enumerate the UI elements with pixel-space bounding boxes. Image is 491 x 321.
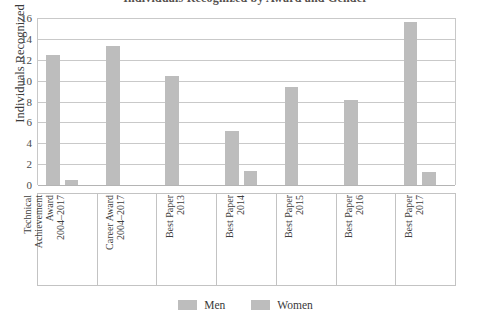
bar-men[interactable] (285, 87, 299, 185)
x-axis-label-cell: Best Paper2017 (396, 194, 455, 285)
legend-item-men[interactable]: Men (178, 299, 225, 311)
x-axis-label-cell: Best Paper2015 (277, 194, 337, 285)
bar-group (98, 18, 158, 185)
x-axis-label-line: 2015 (294, 195, 305, 281)
y-tick-label: 2 (27, 158, 33, 170)
x-axis-label-line: 2013 (175, 195, 186, 281)
x-axis-label-line: 2004–2017 (55, 195, 66, 281)
legend: MenWomen (0, 299, 491, 311)
x-axis-label-cell: Best Paper2014 (217, 194, 277, 285)
y-tick-label: 0 (27, 179, 33, 191)
bar-men[interactable] (404, 22, 418, 185)
x-axis-label-line: Technical (22, 195, 33, 281)
bar-group (336, 18, 396, 185)
legend-item-women[interactable]: Women (251, 299, 312, 311)
bar-women[interactable] (65, 180, 79, 185)
x-axis-label-line: Best Paper (343, 195, 354, 281)
gridline-0: 0 (38, 185, 455, 186)
chart-title: Individuals Recognized by Award and Gend… (0, 0, 491, 5)
legend-label: Men (204, 299, 225, 311)
bar-group (395, 18, 455, 185)
bars-layer (38, 18, 455, 185)
y-tick-label: 6 (27, 116, 33, 128)
plot-frame: 0246810121416 (37, 18, 456, 185)
bar-men[interactable] (344, 100, 358, 185)
x-axis-label: Best Paper2016 (343, 195, 365, 281)
x-axis-label: Best Paper2014 (224, 195, 246, 281)
y-tick-label: 4 (27, 137, 33, 149)
plot-area: 0246810121416 (37, 18, 456, 185)
x-axis-label-line: Best Paper (164, 195, 175, 281)
y-tick-label: 16 (21, 12, 32, 24)
x-axis-label-cell: TechnicalAchievementAward2004–2017 (38, 194, 98, 285)
bar-men[interactable] (46, 55, 60, 185)
legend-label: Women (277, 299, 312, 311)
x-axis-label-cell: Best Paper2016 (337, 194, 397, 285)
bar-group (157, 18, 217, 185)
bar-group (276, 18, 336, 185)
bar-women[interactable] (422, 172, 436, 185)
x-axis-label-line: Best Paper (403, 195, 414, 281)
bar-men[interactable] (165, 76, 179, 185)
x-axis-label: TechnicalAchievementAward2004–2017 (22, 195, 66, 281)
x-axis-label-line: Career Award (104, 195, 115, 281)
y-tick-label: 14 (21, 33, 32, 45)
x-axis-label-line: Award (44, 195, 55, 281)
bar-men[interactable] (106, 46, 120, 185)
y-tick-label: 10 (21, 75, 32, 87)
x-axis-label-line: Best Paper (224, 195, 235, 281)
x-axis-label-line: 2004–2017 (115, 195, 126, 281)
x-axis-label: Best Paper2015 (283, 195, 305, 281)
x-axis-label-cell: Career Award2004–2017 (98, 194, 158, 285)
x-axis-label-cell: Best Paper2013 (157, 194, 217, 285)
x-axis-label: Best Paper2017 (403, 195, 425, 281)
x-axis-label-line: 2016 (354, 195, 365, 281)
x-axis-label-line: 2014 (235, 195, 246, 281)
legend-swatch-icon (251, 300, 270, 310)
x-axis-label-line: Achievement (33, 195, 44, 281)
x-axis-label-table: TechnicalAchievementAward2004–2017Career… (37, 193, 456, 286)
bar-group (38, 18, 98, 185)
bar-men[interactable] (225, 131, 239, 185)
bar-women[interactable] (244, 171, 258, 185)
bar-group (217, 18, 277, 185)
legend-swatch-icon (178, 300, 197, 310)
x-axis-label-line: 2017 (414, 195, 425, 281)
y-tick-label: 8 (27, 96, 33, 108)
y-tick-label: 12 (21, 54, 32, 66)
x-axis-label: Career Award2004–2017 (104, 195, 126, 281)
x-axis-label-line: Best Paper (283, 195, 294, 281)
x-axis-label: Best Paper2013 (164, 195, 186, 281)
